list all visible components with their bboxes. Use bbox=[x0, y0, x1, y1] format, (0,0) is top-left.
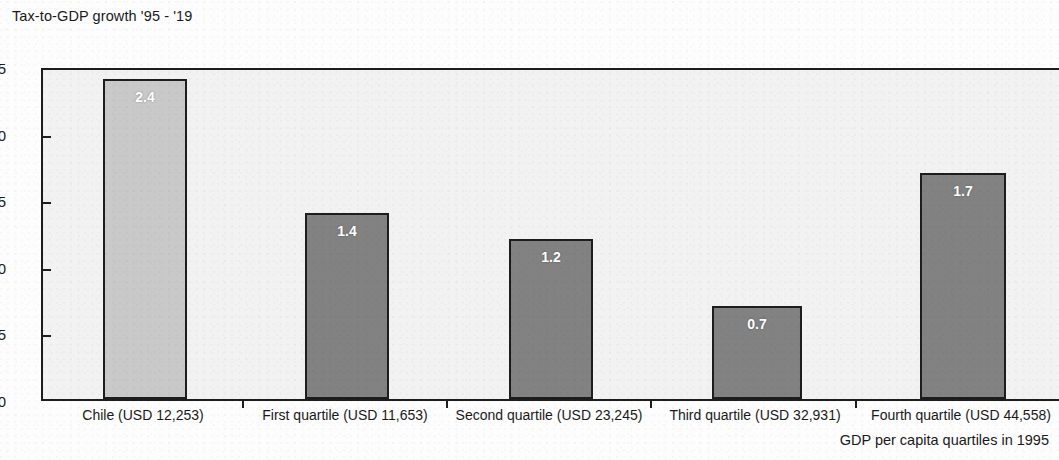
bar-value-label: 1.2 bbox=[511, 249, 591, 265]
bar-value-label: 1.4 bbox=[307, 223, 387, 239]
bar-value-label: 0.7 bbox=[714, 316, 800, 332]
bar-value-label: 2.4 bbox=[105, 89, 185, 105]
plot-area: 2.41.41.20.71.7 bbox=[41, 68, 1059, 401]
x-axis-category-label: First quartile (USD 11,653) bbox=[262, 407, 427, 423]
x-axis-tick-mark bbox=[242, 401, 244, 408]
chart-page: Tax-to-GDP growth '95 - '19 0.00.51.01.5… bbox=[0, 0, 1059, 460]
x-axis-category-label: Third quartile (USD 32,931) bbox=[669, 407, 840, 423]
bar: 1.7 bbox=[920, 173, 1006, 399]
x-axis-category-label: Fourth quartile (USD 44,558) bbox=[871, 407, 1051, 423]
y-axis-tick-mark bbox=[43, 202, 51, 204]
y-axis-tick-label: 1.0 bbox=[0, 259, 6, 276]
y-axis-tick-label: 0.0 bbox=[0, 393, 6, 410]
y-axis-tick-mark bbox=[43, 136, 51, 138]
y-axis-tick-label: 0.5 bbox=[0, 326, 6, 343]
x-axis-category-label: Second quartile (USD 23,245) bbox=[456, 407, 643, 423]
y-axis-tick-label: 2.5 bbox=[0, 60, 6, 77]
plot-inner: 2.41.41.20.71.7 bbox=[43, 70, 1059, 399]
bar: 1.4 bbox=[305, 213, 389, 399]
bar: 1.2 bbox=[509, 239, 593, 399]
bar: 0.7 bbox=[712, 306, 802, 399]
y-axis-tick-mark bbox=[43, 335, 51, 337]
x-axis-tick-mark bbox=[446, 401, 448, 408]
x-axis-title: GDP per capita quartiles in 1995 bbox=[840, 432, 1049, 448]
x-axis-tick-mark bbox=[650, 401, 652, 408]
chart-title: Tax-to-GDP growth '95 - '19 bbox=[12, 8, 192, 24]
y-axis-tick-label: 1.5 bbox=[0, 193, 6, 210]
bar-value-label: 1.7 bbox=[922, 183, 1004, 199]
x-axis-category-label: Chile (USD 12,253) bbox=[82, 407, 203, 423]
y-axis-tick-mark bbox=[43, 269, 51, 271]
x-axis-tick-mark bbox=[855, 401, 857, 408]
bar: 2.4 bbox=[103, 79, 187, 399]
y-axis-tick-label: 2.0 bbox=[0, 126, 6, 143]
